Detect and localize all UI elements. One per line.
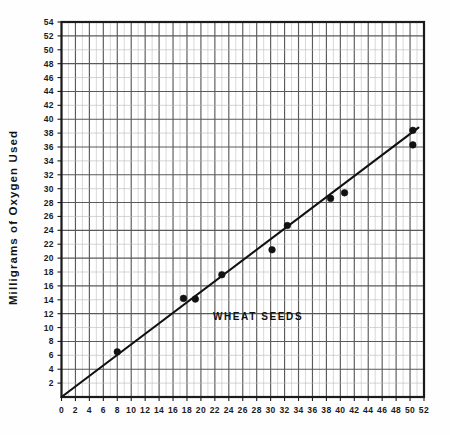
- x-tick-label: 46: [377, 405, 387, 415]
- annotation-wheat-seeds: WHEAT SEEDS: [213, 311, 303, 322]
- y-tick-label: 50: [32, 45, 54, 55]
- x-tick-label: 48: [391, 405, 401, 415]
- x-tick-label: 52: [419, 405, 429, 415]
- x-tick-label: 30: [265, 405, 275, 415]
- y-tick-label: 54: [32, 17, 54, 27]
- x-tick-label: 20: [196, 405, 206, 415]
- x-tick-label: 38: [321, 405, 331, 415]
- data-point: [269, 246, 276, 253]
- y-tick-label: 20: [32, 253, 54, 263]
- data-point: [180, 295, 187, 302]
- y-tick-label: 44: [32, 86, 54, 96]
- x-tick-label: 44: [363, 405, 373, 415]
- y-tick-label: 52: [32, 31, 54, 41]
- y-tick-label: 10: [32, 323, 54, 333]
- x-tick-label: 12: [140, 405, 150, 415]
- x-tick-label: 28: [252, 405, 262, 415]
- x-tick-label: 40: [335, 405, 345, 415]
- y-tick-label: 18: [32, 267, 54, 277]
- x-tick-label: 18: [182, 405, 192, 415]
- y-tick-label: 24: [32, 225, 54, 235]
- y-tick-label: 4: [32, 364, 54, 374]
- x-tick-label: 42: [349, 405, 359, 415]
- data-point: [284, 222, 291, 229]
- x-tick-label: 8: [115, 405, 120, 415]
- data-point: [219, 271, 226, 278]
- y-tick-label: 40: [32, 114, 54, 124]
- y-tick-label: 34: [32, 156, 54, 166]
- x-tick-label: 26: [238, 405, 248, 415]
- x-tick-label: 14: [154, 405, 164, 415]
- x-tick-label: 6: [101, 405, 106, 415]
- y-tick-label: 12: [32, 309, 54, 319]
- x-tick-label: 2: [73, 405, 78, 415]
- y-tick-label: 14: [32, 295, 54, 305]
- y-tick-label: 46: [32, 73, 54, 83]
- y-tick-label: 48: [32, 59, 54, 69]
- y-tick-label: 16: [32, 281, 54, 291]
- y-tick-label: 6: [32, 350, 54, 360]
- data-point: [410, 127, 417, 134]
- data-point: [192, 296, 199, 303]
- chart-figure: Milligrams of Oxygen Used WHEAT SEEDS 24…: [0, 0, 450, 435]
- y-tick-label: 26: [32, 211, 54, 221]
- y-tick-label: 22: [32, 239, 54, 249]
- data-point: [327, 195, 334, 202]
- x-tick-label: 32: [279, 405, 289, 415]
- y-tick-label: 30: [32, 184, 54, 194]
- x-tick-label: 4: [87, 405, 92, 415]
- y-tick-label: 42: [32, 100, 54, 110]
- scatter-plot-svg: [0, 0, 450, 435]
- x-tick-label: 24: [224, 405, 234, 415]
- x-tick-label: 50: [405, 405, 415, 415]
- x-tick-label: 16: [168, 405, 178, 415]
- data-point: [341, 190, 348, 197]
- y-tick-label: 8: [32, 336, 54, 346]
- y-tick-label: 38: [32, 128, 54, 138]
- x-tick-label: 34: [293, 405, 303, 415]
- data-point: [410, 142, 417, 149]
- x-tick-label: 10: [126, 405, 136, 415]
- plot-area: [0, 0, 450, 435]
- data-point: [114, 349, 121, 356]
- x-tick-label: 22: [210, 405, 220, 415]
- y-tick-label: 28: [32, 198, 54, 208]
- x-tick-label: 0: [59, 405, 64, 415]
- y-tick-label: 2: [32, 378, 54, 388]
- x-tick-label: 36: [307, 405, 317, 415]
- y-tick-label: 32: [32, 170, 54, 180]
- y-tick-label: 36: [32, 142, 54, 152]
